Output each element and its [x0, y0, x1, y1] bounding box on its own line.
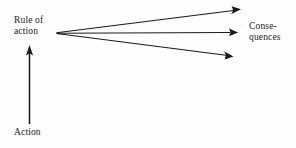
node-label-action-line-1: Action — [14, 127, 41, 138]
rule-to-consequences-arrow-lower — [57, 34, 234, 60]
node-label-consequences-line-2: quences — [249, 32, 281, 43]
diagram-canvas: Rule of action Conse- quences Action — [0, 0, 296, 148]
action-to-rule-arrow — [26, 45, 33, 124]
node-label-consequences-line-1: Conse- — [249, 21, 281, 32]
rule-to-consequences-arrow-middle-shaft — [57, 32, 231, 33]
node-label-rule-of-action-line-2: action — [14, 26, 43, 37]
node-label-consequences: Conse- quences — [249, 21, 281, 43]
node-label-rule-of-action: Rule of action — [14, 15, 43, 37]
rule-to-consequences-arrow-upper — [57, 6, 242, 33]
rule-to-consequences-arrow-upper-shaft — [57, 11, 234, 33]
node-label-rule-of-action-line-1: Rule of — [14, 15, 43, 26]
node-label-action: Action — [14, 127, 41, 138]
rule-to-consequences-arrow-lower-shaft — [57, 34, 227, 56]
